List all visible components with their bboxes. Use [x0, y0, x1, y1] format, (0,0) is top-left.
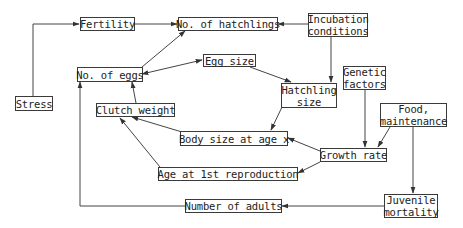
edge-clutch-eggs [132, 82, 136, 103]
node-incubation-conditions: Incubation conditions [308, 13, 368, 37]
node-label: Body size at age x [179, 133, 289, 145]
node-number-of-adults: Number of adults [185, 199, 282, 213]
node-stress: Stress [15, 96, 53, 111]
node-no-of-eggs: No. of eggs [77, 67, 143, 82]
node-label: Number of adults [185, 200, 283, 212]
node-food-maintenance: Food, maintenance [380, 103, 447, 127]
node-label-line1: Food, [398, 103, 429, 115]
edge-growth-bodysize [288, 138, 320, 151]
node-hatchling-size: Hatchling size [281, 83, 337, 108]
node-label: No. of hatchlings [176, 18, 280, 30]
node-fertility: Fertility [80, 17, 135, 31]
node-label: Age at 1st reproduction [158, 168, 299, 180]
node-label-line2: size [297, 96, 322, 108]
node-juvenile-mortality: Juvenile mortality [384, 194, 438, 218]
node-label-line1: Genetic [343, 66, 386, 78]
edge-eggs-hatchlings [142, 31, 185, 67]
node-label: Egg size [205, 55, 254, 67]
node-label: Fertility [80, 18, 135, 30]
node-label-line2: mortality [383, 206, 438, 218]
node-label-line1: Juvenile [387, 194, 436, 206]
node-label-line1: Incubation [307, 13, 368, 25]
node-egg-size: Egg size [203, 54, 256, 67]
edge-hatchlingsize-bodysize [271, 107, 282, 130]
node-label: Clutch weight [96, 104, 176, 116]
node-label: Stress [16, 98, 53, 110]
edge-food-growth [378, 127, 390, 147]
node-label-line2: conditions [307, 25, 368, 37]
node-clutch-weight: Clutch weight [96, 103, 175, 117]
node-age-at-1st-reproduction: Age at 1st reproduction [158, 167, 298, 181]
node-label: No. of eggs [76, 69, 143, 81]
node-growth-rate: Growth rate [320, 148, 387, 162]
edge-adults-eggs [80, 82, 185, 206]
edge-stress-fertility [33, 24, 79, 96]
edge-eggs-eggsize [142, 60, 202, 74]
edge-bodysize-clutch [132, 117, 182, 132]
node-no-of-hatchlings: No. of hatchlings [178, 17, 278, 31]
node-label-line2: factors [343, 78, 386, 90]
edge-eggsize-hatchlingsize [250, 67, 291, 82]
node-genetic-factors: Genetic factors [343, 66, 386, 90]
edge-agerepro-clutch [120, 118, 160, 167]
node-label-line2: maintenance [380, 115, 447, 127]
node-label: Growth rate [320, 149, 387, 161]
edge-growth-agerepro [298, 162, 320, 173]
node-label-line1: Hatchling [281, 84, 336, 96]
node-body-size-at-age-x: Body size at age x [180, 131, 288, 146]
